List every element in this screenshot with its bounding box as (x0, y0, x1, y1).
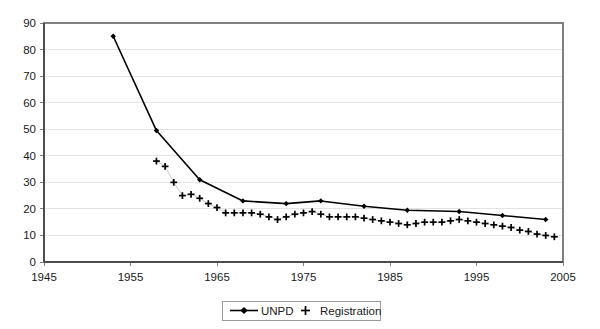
chart-container: 9080706050403020100 19451955196519751985… (0, 0, 600, 329)
x-tick-label: 1995 (464, 271, 490, 283)
legend-label-registration: Registration (320, 305, 381, 317)
y-tick-label: 0 (30, 256, 36, 268)
y-axis: 9080706050403020100 (23, 17, 44, 268)
x-tick-label: 1965 (204, 271, 230, 283)
x-axis: 1945195519651975198519952005 (31, 262, 576, 283)
y-tick-label: 70 (23, 70, 36, 82)
y-tick-label: 40 (23, 150, 36, 162)
line-chart: 9080706050403020100 19451955196519751985… (0, 0, 600, 329)
y-tick-label: 60 (23, 97, 36, 109)
x-tick-label: 2005 (550, 271, 576, 283)
x-tick-label: 1955 (118, 271, 144, 283)
chart-legend: UNPD Registration (222, 301, 381, 320)
x-tick-label: 1945 (31, 271, 57, 283)
y-tick-label: 90 (23, 17, 36, 29)
legend-label-unpd: UNPD (261, 305, 294, 317)
y-tick-label: 20 (23, 203, 36, 215)
x-tick-label: 1975 (291, 271, 317, 283)
y-tick-label: 10 (23, 229, 36, 241)
x-tick-label: 1985 (377, 271, 403, 283)
y-tick-label: 50 (23, 123, 36, 135)
y-tick-label: 30 (23, 176, 36, 188)
y-tick-label: 80 (23, 44, 36, 56)
